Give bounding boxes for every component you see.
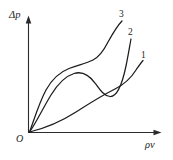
x-axis-arrow-icon bbox=[154, 130, 162, 135]
x-axis-label: ρv bbox=[145, 140, 155, 151]
curve-label-2: 2 bbox=[128, 28, 133, 38]
figure-container: Δp ρv O 3 2 1 bbox=[0, 0, 173, 160]
curve-3 bbox=[30, 21, 123, 132]
curve-label-3: 3 bbox=[119, 10, 124, 20]
plot-canvas bbox=[0, 0, 173, 160]
curve-label-1: 1 bbox=[141, 51, 146, 61]
curve-2 bbox=[30, 39, 132, 132]
curve-1 bbox=[30, 61, 144, 133]
y-axis-arrow-icon bbox=[26, 16, 32, 24]
y-axis-label: Δp bbox=[9, 10, 20, 21]
origin-label: O bbox=[16, 134, 23, 144]
